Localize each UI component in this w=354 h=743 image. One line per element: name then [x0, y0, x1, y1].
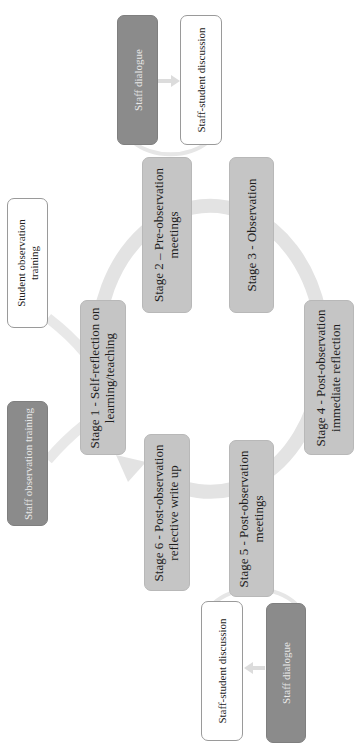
stage-1-line2: learning/teaching — [103, 307, 118, 448]
student-observation-training-label: Student observation training — [15, 219, 40, 307]
student-training-line2: training — [28, 219, 41, 307]
staff-observation-training-label: Staff observation training — [21, 407, 34, 519]
stage-2-line1: Stage 2 – Pre-observation — [152, 168, 167, 302]
bottom-staff-dialogue-label: Staff dialogue — [280, 642, 293, 704]
stage-4-box: Stage 4 - Post-observation immediate ref… — [304, 300, 354, 455]
stage-6-line2: reflective write up — [167, 444, 182, 581]
stage-5-label: Stage 5 - Post-observation meetings — [237, 450, 267, 587]
stage-6-label: Stage 6 - Post-observation reflective wr… — [152, 444, 182, 581]
top-staff-student-discussion-box: Staff-student discussion — [180, 15, 222, 145]
bottom-staff-student-discussion-box: Staff-student discussion — [201, 601, 243, 741]
bottom-staff-dialogue-box: Staff dialogue — [266, 603, 306, 743]
stage-5-line2: meetings — [252, 450, 267, 587]
stage-1-box: Stage 1 - Self-reflection on learning/te… — [80, 300, 126, 455]
student-training-line1: Student observation — [15, 219, 28, 307]
staff-training-connector — [48, 425, 84, 460]
stage-2-box: Stage 2 – Pre-observation meetings — [142, 157, 192, 313]
top-staff-dialogue-label: Staff dialogue — [131, 49, 144, 111]
bottom-staff-student-discussion-label: Staff-student discussion — [216, 618, 229, 723]
stage-6-line1: Stage 6 - Post-observation — [152, 444, 167, 581]
top-staff-dialogue-box: Staff dialogue — [117, 15, 158, 145]
stage-1-label: Stage 1 - Self-reflection on learning/te… — [88, 307, 118, 448]
staff-observation-training-box: Staff observation training — [7, 401, 48, 526]
stage-4-line1: Stage 4 - Post-observation — [314, 309, 329, 446]
stage-3-label: Stage 3 - Observation — [244, 178, 259, 291]
stage-1-line1: Stage 1 - Self-reflection on — [88, 307, 103, 448]
cycle-arrow-head-icon — [116, 455, 146, 482]
stage-3-line1: Stage 3 - Observation — [244, 178, 259, 291]
stage-2-line2: meetings — [167, 168, 182, 302]
top-staff-student-discussion-label: Staff-student discussion — [195, 27, 208, 132]
top-arrow-head-icon — [171, 75, 180, 87]
stage-5-box: Stage 5 - Post-observation meetings — [229, 440, 274, 597]
stage-5-line1: Stage 5 - Post-observation — [237, 450, 252, 587]
stage-3-box: Stage 3 - Observation — [229, 157, 274, 313]
stage-4-line2: immediate reflection — [329, 309, 344, 446]
bottom-arrow-head-icon — [244, 662, 253, 674]
stage-6-box: Stage 6 - Post-observation reflective wr… — [144, 434, 190, 591]
stage-4-label: Stage 4 - Post-observation immediate ref… — [314, 309, 344, 446]
cycle-ring — [97, 206, 323, 492]
student-observation-training-box: Student observation training — [7, 198, 48, 328]
stage-2-label: Stage 2 – Pre-observation meetings — [152, 168, 182, 302]
student-training-connector — [48, 318, 84, 352]
